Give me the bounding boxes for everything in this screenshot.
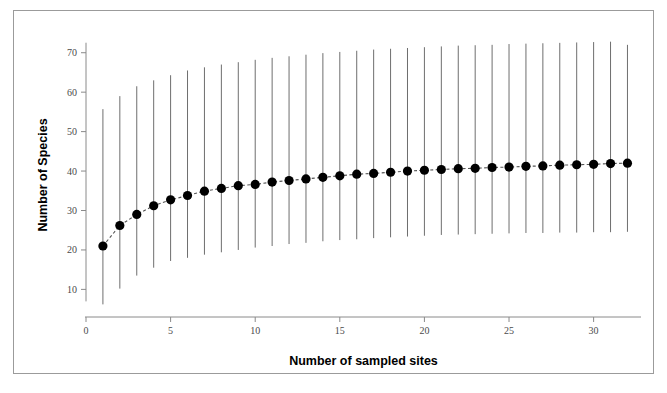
data-point	[572, 160, 581, 169]
x-tick-label: 15	[335, 325, 345, 336]
data-point	[301, 174, 310, 183]
y-tick-label: 50	[67, 126, 77, 137]
data-point	[132, 210, 141, 219]
data-point	[268, 178, 277, 187]
data-point	[217, 184, 226, 193]
data-point	[521, 162, 530, 171]
data-point	[606, 159, 615, 168]
data-point	[504, 163, 513, 172]
data-point	[335, 171, 344, 180]
species-accumulation-chart: 10203040506070051015202530Number of Spec…	[14, 11, 653, 373]
x-tick-label: 30	[589, 325, 599, 336]
chart-svg: 10203040506070051015202530Number of Spec…	[14, 11, 653, 373]
x-tick-label: 5	[168, 325, 173, 336]
data-point	[420, 166, 429, 175]
data-point	[623, 159, 632, 168]
clipped-caption-strip	[0, 0, 667, 9]
data-point	[98, 241, 107, 250]
y-tick-label: 60	[67, 87, 77, 98]
data-point	[369, 169, 378, 178]
figure-frame: 10203040506070051015202530Number of Spec…	[13, 10, 654, 374]
data-point	[487, 163, 496, 172]
data-point	[555, 161, 564, 170]
y-tick-label: 10	[67, 284, 77, 295]
trend-line	[103, 163, 628, 246]
x-tick-label: 25	[504, 325, 514, 336]
data-point	[115, 221, 124, 230]
x-tick-label: 0	[84, 325, 89, 336]
x-axis-title: Number of sampled sites	[289, 354, 438, 368]
data-point	[284, 176, 293, 185]
y-tick-label: 30	[67, 205, 77, 216]
data-point	[403, 166, 412, 175]
y-tick-label: 70	[67, 47, 77, 58]
data-point	[386, 168, 395, 177]
data-point	[234, 181, 243, 190]
data-point	[251, 180, 260, 189]
data-points	[98, 159, 632, 251]
data-point	[149, 201, 158, 210]
y-axis-title: Number of Species	[36, 118, 50, 231]
data-point	[437, 165, 446, 174]
data-point	[200, 187, 209, 196]
y-tick-label: 20	[67, 244, 77, 255]
data-point	[471, 164, 480, 173]
y-tick-label: 40	[67, 166, 77, 177]
data-point	[166, 195, 175, 204]
data-point	[589, 160, 598, 169]
error-bars	[103, 42, 628, 305]
x-tick-label: 20	[419, 325, 429, 336]
x-tick-label: 10	[250, 325, 260, 336]
data-point	[318, 173, 327, 182]
data-point	[352, 170, 361, 179]
data-point	[454, 164, 463, 173]
data-point	[183, 191, 192, 200]
data-point	[538, 161, 547, 170]
